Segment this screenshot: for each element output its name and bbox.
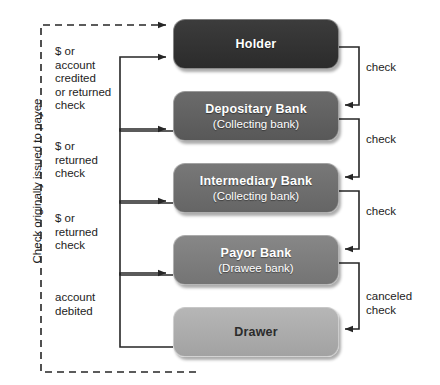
edge-label-holder-to-depositary: check	[366, 61, 396, 75]
wire-intermediary-to-depositary	[120, 129, 173, 203]
node-holder[interactable]: Holder	[173, 19, 339, 69]
node-drawer[interactable]: Drawer	[173, 307, 339, 357]
wire-intermediary-to-payor	[338, 191, 359, 249]
wire-holder-to-depositary	[338, 47, 359, 105]
edge-label-depositary-to-intermediary: check	[366, 133, 396, 147]
outer-flow-label: Check originally issued to payee	[31, 76, 43, 286]
node-intermediary-bank-title: Intermediary Bank	[200, 174, 312, 189]
edge-label-depositary-to-holder: $ or account credited or returned check	[55, 45, 111, 113]
node-depositary-bank-subtitle: (Collecting bank)	[213, 117, 299, 131]
wire-drawer-to-payor	[120, 273, 173, 347]
wire-payor-to-intermediary	[120, 201, 173, 275]
diagram-canvas: Holder Depositary Bank (Collecting bank)…	[0, 0, 440, 385]
node-depositary-bank[interactable]: Depositary Bank (Collecting bank)	[173, 91, 339, 141]
edge-label-intermediary-to-payor: check	[366, 205, 396, 219]
edge-label-payor-to-drawer: canceled check	[366, 290, 412, 317]
node-drawer-title: Drawer	[234, 325, 278, 340]
wire-depositary-to-holder	[120, 57, 173, 131]
edge-label-drawer-to-payor: account debited	[55, 291, 95, 318]
edge-label-payor-to-intermediary: $ or returned check	[55, 212, 98, 253]
node-intermediary-bank[interactable]: Intermediary Bank (Collecting bank)	[173, 163, 339, 213]
node-intermediary-bank-subtitle: (Collecting bank)	[213, 189, 299, 203]
node-payor-bank-subtitle: (Drawee bank)	[218, 261, 293, 275]
node-holder-title: Holder	[236, 37, 277, 52]
node-depositary-bank-title: Depositary Bank	[205, 102, 307, 117]
wire-depositary-to-intermediary	[338, 119, 359, 177]
node-payor-bank[interactable]: Payor Bank (Drawee bank)	[173, 235, 339, 285]
wire-payor-to-drawer	[338, 263, 359, 329]
edge-label-intermediary-to-depositary: $ or returned check	[55, 140, 98, 181]
node-payor-bank-title: Payor Bank	[221, 246, 292, 261]
